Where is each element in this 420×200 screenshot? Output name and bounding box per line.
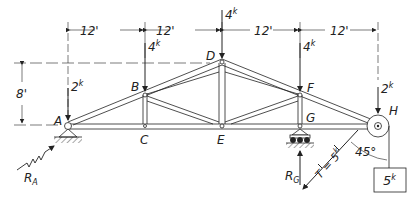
- truss-members: [68, 59, 378, 129]
- pin-a: [65, 123, 72, 130]
- node-e-label: E: [217, 134, 225, 146]
- reaction-ra: [17, 146, 54, 170]
- reaction-rg-label: RG: [285, 170, 300, 185]
- height-dimension: [14, 63, 210, 125]
- span-fh-label: 12': [330, 25, 349, 37]
- node-b-label: B: [131, 81, 139, 93]
- span-ab-label: 12': [80, 25, 99, 37]
- truss-diagram: 12' 12' 12' 12' 8' 2k 4k 4k 4k 2k A B C …: [0, 0, 420, 200]
- pin-support-a: [54, 129, 82, 143]
- weight-label: 5k: [383, 174, 396, 187]
- roller-support-g: [286, 129, 314, 148]
- span-df-label: 12': [254, 25, 273, 37]
- node-a-label: A: [54, 115, 62, 127]
- height-label: 8': [16, 88, 27, 100]
- node-f-label: F: [307, 82, 314, 94]
- span-bd-label: 12': [156, 25, 175, 37]
- node-d-label: D: [206, 50, 215, 62]
- load-d-label: 4k: [225, 8, 237, 21]
- node-g-label: G: [306, 112, 315, 124]
- angle-label: 45°: [355, 146, 376, 158]
- load-h-label: 2k: [381, 82, 393, 95]
- node-h-label: H: [389, 105, 398, 117]
- reaction-ra-label: RA: [24, 172, 38, 187]
- load-a-label: 2k: [71, 80, 83, 93]
- load-f-label: 4k: [303, 40, 315, 53]
- node-c-label: C: [140, 134, 148, 146]
- truss-pins: [65, 60, 303, 130]
- truss-drawing: [0, 0, 420, 200]
- load-b-label: 4k: [148, 40, 160, 53]
